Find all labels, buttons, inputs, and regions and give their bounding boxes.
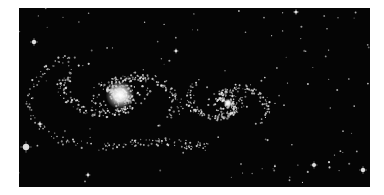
galaxy-image bbox=[19, 8, 370, 187]
starfield bbox=[19, 8, 370, 187]
